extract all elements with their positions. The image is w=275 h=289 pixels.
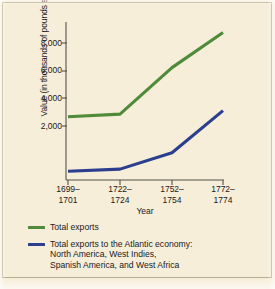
y-tick-label-6000: 6,000 bbox=[28, 66, 62, 75]
x-tick-label-3-line2: 1754 bbox=[146, 195, 198, 206]
x-tick-label-1: 1699– 1701 bbox=[42, 184, 94, 206]
legend-label-total-exports: Total exports bbox=[50, 222, 99, 233]
legend-label-atlantic-economy-line3: Spanish America, and West Africa bbox=[50, 260, 192, 271]
x-tick-label-2-line2: 1724 bbox=[94, 195, 146, 206]
plot-area bbox=[66, 22, 224, 180]
legend-entry-atlantic-economy: Total exports to the Atlantic economy: N… bbox=[28, 239, 264, 271]
x-tick-label-3-line1: 1752– bbox=[146, 184, 198, 195]
y-axis-title-container: Value (in thousands of pounds sterling) bbox=[6, 18, 20, 184]
chart-legend: Total exports Total exports to the Atlan… bbox=[28, 222, 264, 276]
x-tick-label-3: 1752– 1754 bbox=[146, 184, 198, 206]
series-line-atlantic-economy bbox=[68, 111, 223, 172]
x-axis-title: Year bbox=[66, 206, 224, 216]
legend-entry-total-exports: Total exports bbox=[28, 222, 264, 233]
legend-color-swatch-green bbox=[28, 226, 45, 229]
y-tick-label-4000: 4,000 bbox=[28, 94, 62, 103]
legend-label-atlantic-economy: Total exports to the Atlantic economy: N… bbox=[50, 239, 192, 271]
x-tick-label-4: 1772– 1774 bbox=[197, 184, 249, 206]
x-tick-label-2: 1722– 1724 bbox=[94, 184, 146, 206]
chart-figure: Value (in thousands of pounds sterling) … bbox=[0, 0, 275, 289]
legend-color-swatch-blue bbox=[28, 243, 45, 246]
x-tick-label-4-line1: 1772– bbox=[197, 184, 249, 195]
x-tick-label-2-line1: 1722– bbox=[94, 184, 146, 195]
y-tick-label-8000: 8,000 bbox=[28, 39, 62, 48]
legend-label-atlantic-economy-line2: North America, West Indies, bbox=[50, 249, 192, 260]
series-line-total-exports bbox=[68, 33, 223, 117]
figure-border-top bbox=[2, 2, 272, 3]
figure-border-bottom bbox=[2, 277, 272, 278]
x-tick-label-1-line2: 1701 bbox=[42, 195, 94, 206]
x-tick-label-4-line2: 1774 bbox=[197, 195, 249, 206]
x-tick-label-1-line1: 1699– bbox=[42, 184, 94, 195]
y-tick-label-2000: 2,000 bbox=[28, 122, 62, 131]
legend-label-atlantic-economy-line1: Total exports to the Atlantic economy: bbox=[50, 239, 192, 250]
figure-border-left bbox=[2, 2, 3, 277]
legend-label-total-exports-line1: Total exports bbox=[50, 222, 99, 233]
figure-border-right bbox=[271, 2, 272, 277]
plot-svg bbox=[66, 22, 224, 180]
